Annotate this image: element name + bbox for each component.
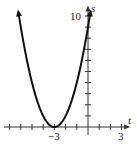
x-tick-label-neg3: −3	[48, 130, 60, 142]
parabola-curve	[16, 9, 93, 127]
y-tick-label-10: 10	[70, 10, 82, 22]
axes	[4, 5, 130, 135]
x-tick-label-3: 3	[118, 130, 124, 142]
x-axis-label: t	[128, 114, 132, 126]
parabola-chart: −3 3 10 t s	[0, 0, 137, 144]
y-axis-label: s	[91, 2, 95, 14]
